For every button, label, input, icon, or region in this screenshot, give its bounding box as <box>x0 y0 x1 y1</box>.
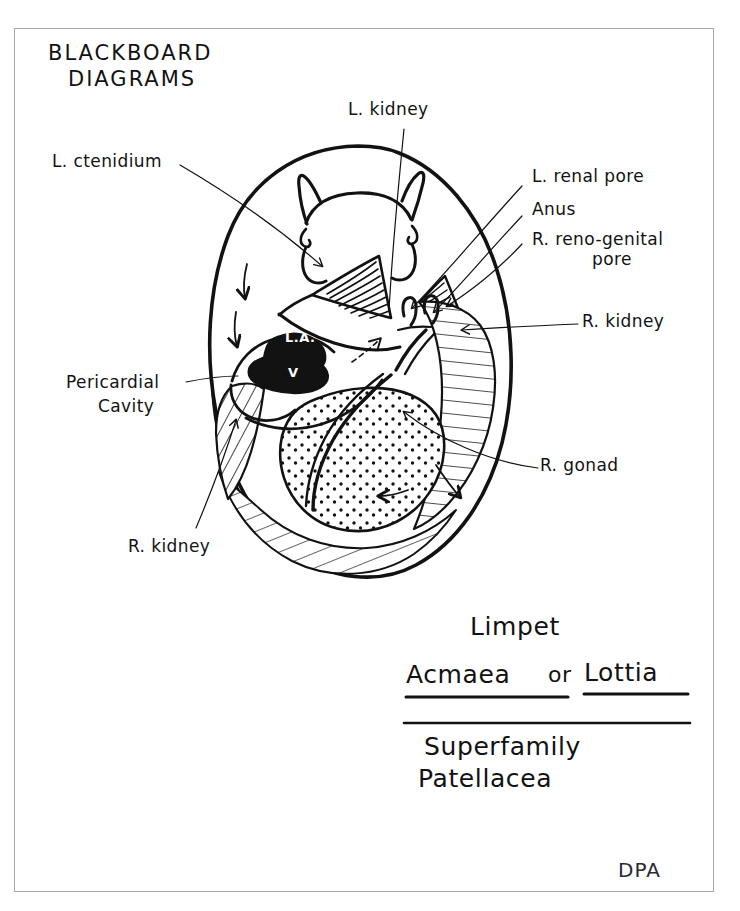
label-r-gonad: R. gonad <box>540 456 618 475</box>
caption-genus-a: Acmaea <box>406 660 510 689</box>
caption-rank: Superfamily <box>424 732 581 761</box>
signature-initials: DPA <box>618 858 661 882</box>
label-l-kidney-top: L. kidney <box>348 100 429 119</box>
label-ventricle: V <box>288 365 299 380</box>
caption-common-name: Limpet <box>470 612 560 641</box>
label-r-kidney-right: R. kidney <box>582 312 664 331</box>
caption-rules <box>0 0 740 911</box>
diagram-page: BLACKBOARD DIAGRAMS L. kidney L. ctenidi… <box>0 0 740 911</box>
label-pericardial-cavity-line-1: Pericardial <box>66 372 159 393</box>
caption-conjunction: or <box>548 662 572 687</box>
label-l-renal-pore: L. renal pore <box>532 167 644 186</box>
page-title-line-1: BLACKBOARD <box>48 42 212 66</box>
page-title-line-2: DIAGRAMS <box>68 68 196 92</box>
label-r-kidney-bottom: R. kidney <box>128 537 210 556</box>
caption-taxon: Patellacea <box>418 764 552 793</box>
label-pericardial-cavity-line-2: Cavity <box>98 396 154 417</box>
label-anus: Anus <box>532 200 576 219</box>
label-l-ctenidium: L. ctenidium <box>52 152 162 171</box>
label-left-auricle: L.A. <box>285 330 315 345</box>
label-r-reno-genital-pore-line-1: R. reno-genital <box>532 230 663 249</box>
label-r-reno-genital-pore-line-2: pore <box>592 250 632 269</box>
caption-genus-b: Lottia <box>584 658 658 687</box>
